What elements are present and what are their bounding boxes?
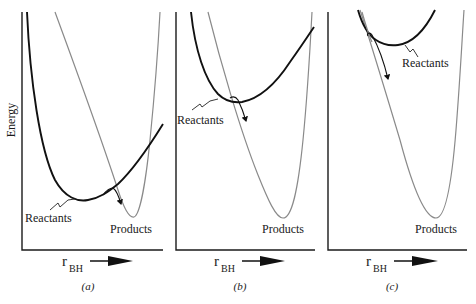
panel-b: Reactants Products r BH (b)	[176, 12, 315, 293]
panel-b-x-axis-subscript: BH	[221, 263, 235, 274]
panel-c-caption: (c)	[386, 280, 399, 293]
panel-a-reactants-curve	[27, 12, 163, 200]
panel-b-reactants-curve	[191, 12, 314, 102]
panel-c-x-axis-subscript: BH	[373, 263, 387, 274]
panel-c-reactants-label: Reactants	[402, 56, 449, 70]
potential-energy-diagram: Energy Reactants Products r BH (a) React…	[0, 0, 476, 304]
panel-a-arrow-head-icon	[108, 256, 133, 266]
panel-c-x-axis-symbol: r	[366, 253, 371, 269]
panel-b-reactants-label: Reactants	[177, 113, 224, 127]
panel-c-products-label: Products	[415, 222, 457, 236]
panel-a-reactants-pointer	[50, 199, 75, 210]
panel-b-caption: (b)	[234, 280, 247, 293]
panel-a-products-label: Products	[110, 222, 152, 236]
panel-c: Reactants Products r BH (c)	[328, 10, 467, 293]
panel-a: Reactants Products r BH (a)	[22, 12, 163, 293]
panel-b-reactants-pointer	[192, 99, 218, 110]
panel-b-x-axis-symbol: r	[214, 253, 219, 269]
panel-c-arrow-head-icon	[412, 256, 438, 266]
panel-c-products-inner-line	[362, 12, 372, 42]
panel-a-reactants-label: Reactants	[25, 211, 72, 225]
panel-a-x-axis-subscript: BH	[69, 263, 83, 274]
energy-axis-label: Energy	[4, 103, 18, 137]
panel-b-products-label: Products	[262, 222, 304, 236]
panel-b-arrow-head-icon	[260, 256, 285, 266]
panel-a-x-axis-symbol: r	[62, 253, 67, 269]
panel-a-products-curve	[55, 12, 160, 217]
panel-a-caption: (a)	[82, 280, 95, 293]
